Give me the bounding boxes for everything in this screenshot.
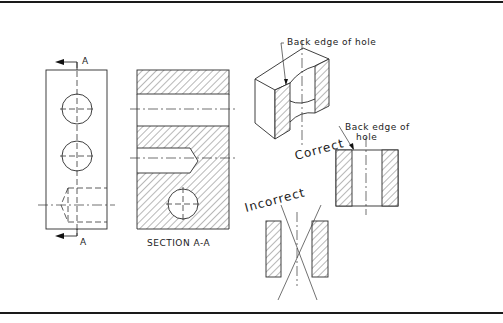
incorrect-view: Incorrect	[243, 185, 328, 300]
incorrect-title: Incorrect	[243, 185, 307, 215]
drawing-canvas: A A SECTION A-A	[0, 0, 503, 323]
section-drawing-figure: A A SECTION A-A	[0, 0, 503, 323]
front-view: A A	[38, 56, 115, 247]
cutting-plane-label-top: A	[82, 56, 89, 66]
correct-view: Back edge of hole Correct	[293, 122, 410, 215]
correct-leader-label-line1: Back edge of	[345, 122, 410, 132]
cutting-plane-label-bottom: A	[80, 237, 87, 247]
section-caption: SECTION A-A	[147, 238, 211, 248]
cutting-plane-arrow-bottom-icon	[55, 233, 64, 239]
cutting-plane-arrow-top-icon	[55, 59, 64, 65]
correct-leader-label-line2: hole	[356, 132, 377, 142]
section-view: SECTION A-A	[130, 70, 236, 248]
isometric-leader-label: Back edge of hole	[287, 37, 376, 47]
